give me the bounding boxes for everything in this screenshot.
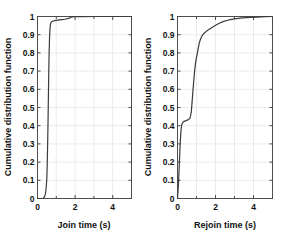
y-tick-label: 0.5 bbox=[163, 103, 175, 113]
x-tick-label: 0 bbox=[35, 202, 40, 212]
x-tick-label: 2 bbox=[213, 202, 218, 212]
chart-panel-join-time: 00.10.20.30.40.50.60.70.80.91 024 Join t… bbox=[0, 0, 142, 241]
x-tick-label: 2 bbox=[73, 202, 78, 212]
x-tick-label: 4 bbox=[110, 202, 115, 212]
y-tick-label: 0.1 bbox=[23, 175, 35, 185]
x-axis-title: Join time (s) bbox=[57, 220, 110, 230]
y-tick-label: 0.5 bbox=[23, 103, 35, 113]
y-tick-label: 0.4 bbox=[163, 121, 175, 131]
y-tick-labels-left: 00.10.20.30.40.50.60.70.80.91 bbox=[23, 12, 35, 204]
y-tick-label: 0.8 bbox=[23, 48, 35, 58]
x-tick-label: 0 bbox=[175, 202, 180, 212]
grid-lines-left bbox=[38, 17, 132, 199]
y-tick-label: 0.2 bbox=[163, 157, 175, 167]
y-tick-label: 0.3 bbox=[23, 139, 35, 149]
y-tick-label: 0 bbox=[170, 194, 175, 204]
figure-container: 00.10.20.30.40.50.60.70.80.91 024 Join t… bbox=[0, 0, 284, 241]
y-tick-label: 0.6 bbox=[23, 84, 35, 94]
x-tick-label: 4 bbox=[251, 202, 256, 212]
y-tick-label: 0.9 bbox=[23, 30, 35, 40]
y-axis-title: Cumulative distribution function bbox=[143, 38, 153, 177]
y-tick-label: 0.3 bbox=[163, 139, 175, 149]
x-axis-title: Rejoin time (s) bbox=[194, 220, 256, 230]
join-time-cdf-svg: 00.10.20.30.40.50.60.70.80.91 024 Join t… bbox=[0, 0, 142, 241]
x-tick-labels-right: 024 bbox=[175, 202, 256, 212]
chart-panel-rejoin-time: 00.10.20.30.40.50.60.70.80.91 024 Rejoin… bbox=[142, 0, 284, 241]
y-tick-label: 0.2 bbox=[23, 157, 35, 167]
x-tick-labels-left: 024 bbox=[35, 202, 115, 212]
y-tick-label: 0 bbox=[30, 194, 35, 204]
y-tick-label: 0.4 bbox=[23, 121, 35, 131]
y-tick-label: 0.6 bbox=[163, 84, 175, 94]
y-tick-label: 0.9 bbox=[163, 30, 175, 40]
y-tick-label: 0.1 bbox=[163, 175, 175, 185]
y-tick-label: 1 bbox=[170, 12, 175, 22]
y-tick-label: 1 bbox=[30, 12, 35, 22]
rejoin-time-cdf-svg: 00.10.20.30.40.50.60.70.80.91 024 Rejoin… bbox=[142, 0, 284, 241]
y-tick-label: 0.7 bbox=[163, 66, 175, 76]
y-tick-labels-right: 00.10.20.30.40.50.60.70.80.91 bbox=[163, 12, 175, 204]
y-tick-label: 0.8 bbox=[163, 48, 175, 58]
y-axis-title: Cumulative distribution function bbox=[3, 38, 13, 177]
y-tick-label: 0.7 bbox=[23, 66, 35, 76]
